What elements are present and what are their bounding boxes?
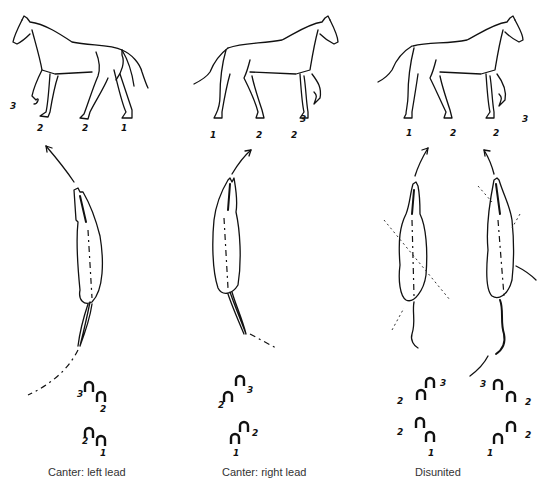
hoof-label: 3 [480,379,486,389]
canter-diagram: 3 2 2 1 3 2 2 1 [0,0,544,492]
diagonal-axis [384,220,450,300]
leg-label-1: 1 [121,123,127,133]
track-line [28,350,78,395]
hoofprint [507,422,515,432]
hoof-label: 1 [428,448,434,458]
hoofprint [97,436,105,446]
leg-label-2a: 2 [37,123,43,133]
direction-arrow [232,150,251,174]
horse-top-view-disunited-left [384,148,450,348]
hoof-label: 1 [100,448,106,458]
hoofprint [416,418,424,428]
hoof-label: 3 [440,378,446,388]
leg-label-2b: 2 [82,123,88,133]
diagonal-axis [392,308,404,330]
hoofprint [426,432,434,442]
panel-disunited: 3 1 2 2 [378,16,536,458]
direction-arrow [484,150,494,174]
hoof-label: 3 [77,389,83,399]
leg-label-2b: 2 [291,130,297,140]
hoof-label: 2 [218,400,224,410]
horse-top-view-right-lead [213,150,276,348]
track-line [470,356,488,376]
hoofprint [224,392,232,402]
hoofprints-right-lead: 3 2 2 1 [218,376,258,458]
direction-arrow [415,148,428,176]
leg-label-1: 1 [210,130,216,140]
hoof-label: 2 [82,436,88,446]
direction-arrow [46,146,74,182]
hoof-label: 2 [525,430,531,440]
hoof-label: 2 [525,397,531,407]
leg-label-3: 3 [10,101,16,111]
panel-left-lead: 3 2 2 1 3 2 2 1 [10,16,148,458]
leg-label-3: 3 [300,114,306,124]
hoof-label: 2 [252,428,258,438]
leg-label-2a: 2 [256,130,262,140]
hoofprint [494,380,502,390]
hoofprint [417,390,425,400]
hoofprint [494,434,502,444]
diagonal-axis [516,266,536,280]
hoof-label: 2 [397,427,403,437]
leg-label-3: 3 [522,114,528,124]
hoofprints-disunited-left: 3 2 2 1 [397,378,446,458]
caption-right-lead: Canter: right lead [222,466,306,478]
hoofprint [236,376,244,386]
hoof-label: 1 [233,448,239,458]
hoofprint [97,392,105,402]
hoofprint [507,392,515,402]
leg-label-1: 1 [406,128,412,138]
caption-left-lead: Canter: left lead [48,466,126,478]
horse-top-view-left-lead [28,146,102,395]
horse-top-view-disunited-right [470,150,536,376]
horse-side-view-left-lead [13,16,148,119]
hoof-label: 3 [247,385,253,395]
hoofprint [426,378,434,388]
hoofprint [231,434,239,444]
horse-side-view-right-lead [194,16,338,118]
track-line [250,334,276,348]
leg-label-2a: 2 [450,128,456,138]
hoofprints-disunited-right: 3 2 2 1 [480,379,531,458]
panel-right-lead: 3 1 2 2 3 2 2 1 [194,16,338,458]
diagonal-axis [512,214,520,228]
leg-label-2b: 2 [493,128,499,138]
horse-side-view-disunited [378,16,523,118]
hoof-label: 2 [397,396,403,406]
caption-disunited: Disunited [415,466,461,478]
hoofprint [240,422,248,432]
hoofprints-left-lead: 3 2 2 1 [77,382,106,458]
hoof-label: 2 [100,404,106,414]
hoofprint [85,382,93,392]
hoof-label: 1 [487,448,493,458]
